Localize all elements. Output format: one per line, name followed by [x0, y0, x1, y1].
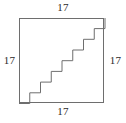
side-label-left: 17 — [2, 55, 17, 66]
geometry-figure: 17 17 17 17 — [0, 0, 126, 123]
staircase-path-icon — [19, 18, 105, 104]
side-label-bottom: 17 — [0, 106, 126, 117]
side-label-right: 17 — [108, 55, 123, 66]
side-label-top: 17 — [0, 2, 126, 13]
staircase-polyline — [19, 18, 105, 104]
